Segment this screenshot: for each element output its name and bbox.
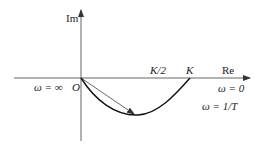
vector-arrow <box>81 78 134 114</box>
nyquist-curve <box>81 78 190 115</box>
k-half-label: K/2 <box>150 65 166 76</box>
real-axis-label: Re <box>222 65 234 76</box>
k-label: K <box>186 65 193 76</box>
omega-zero-label: ω = 0 <box>218 83 244 94</box>
origin-label: O <box>72 82 80 93</box>
omega-infinity-label: ω = ∞ <box>34 82 63 93</box>
imag-axis-label: Im <box>66 13 78 24</box>
nyquist-diagram <box>0 0 255 149</box>
omega-one-over-t-label: ω = 1/T <box>202 101 237 112</box>
